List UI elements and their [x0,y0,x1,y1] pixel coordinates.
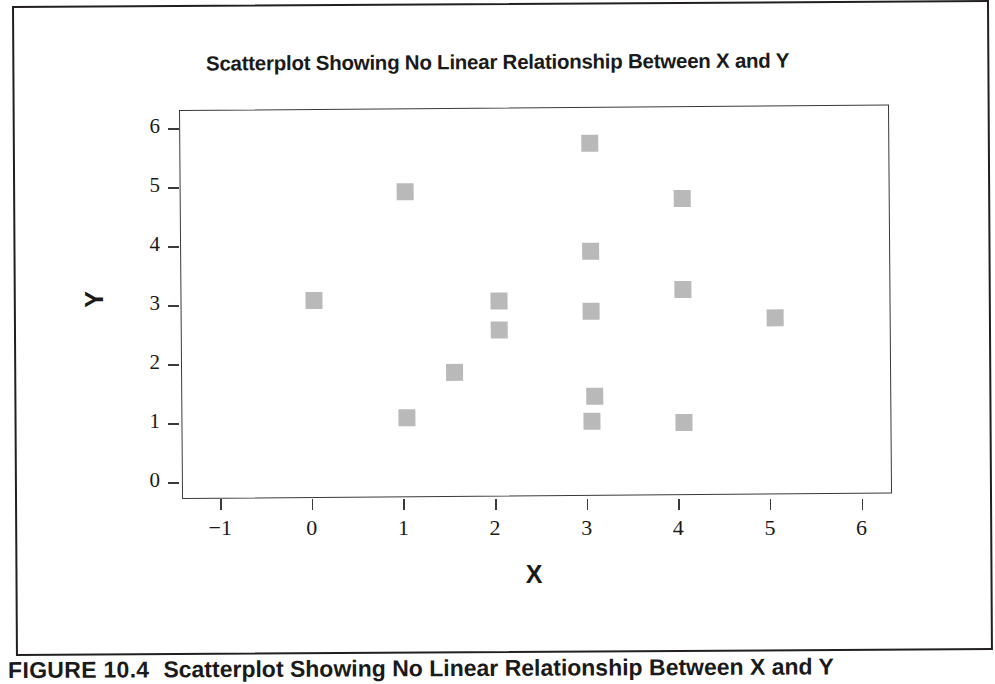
scatter-point [397,183,414,200]
x-axis-tick [587,499,589,510]
y-axis-tick-label: 6 [126,114,160,139]
y-axis-tick [168,246,179,248]
scatter-point [673,190,690,207]
scatter-point [582,242,599,259]
x-axis-tick [678,499,680,510]
y-axis-title: Y [80,291,109,308]
figure-caption-text: Scatterplot Showing No Linear Relationsh… [163,653,834,682]
scatter-point [581,135,598,152]
x-axis-tick [770,499,772,510]
scatter-point [446,364,463,381]
x-axis-title: X [4,560,995,589]
y-axis-tick-label: 1 [126,409,160,434]
x-axis-tick-label: 5 [750,515,790,541]
x-axis-tick-label: 1 [383,515,423,541]
scatter-point [674,281,691,298]
figure-caption-label: FIGURE 10.4 [8,656,149,683]
y-axis-tick-label: 5 [126,173,160,198]
y-axis-tick-label: 3 [126,291,160,316]
scatter-point [491,292,508,309]
x-axis-tick [495,499,497,510]
x-axis-tick-label: 2 [475,515,515,541]
figure-caption: FIGURE 10.4Scatterplot Showing No Linear… [8,653,995,684]
x-axis-tick [312,499,314,510]
y-axis-tick-label: 0 [126,468,160,493]
scatter-point [675,414,692,431]
scatter-point [583,303,600,320]
plot-panel [179,104,892,499]
y-axis-tick [168,305,179,307]
scatter-point [491,322,508,339]
scatter-plot-area [180,105,891,498]
x-axis-tick-label: 4 [658,515,698,541]
scatter-point [583,413,600,430]
y-axis-tick [168,128,179,130]
scatter-point [306,292,323,309]
x-axis-tick-label: 3 [567,515,607,541]
x-axis-tick-label: 0 [292,515,332,541]
scatter-point [767,309,784,326]
y-axis-tick-label: 2 [126,350,160,375]
scatter-point [586,388,603,405]
y-axis-tick [168,187,179,189]
scatter-point [398,409,415,426]
x-axis-tick-label: −1 [200,515,240,541]
x-axis-tick [862,499,864,510]
x-axis-tick [403,499,405,510]
x-axis-tick-label: 6 [842,515,882,541]
y-axis-tick-label: 4 [126,232,160,257]
x-axis-tick [220,499,222,510]
